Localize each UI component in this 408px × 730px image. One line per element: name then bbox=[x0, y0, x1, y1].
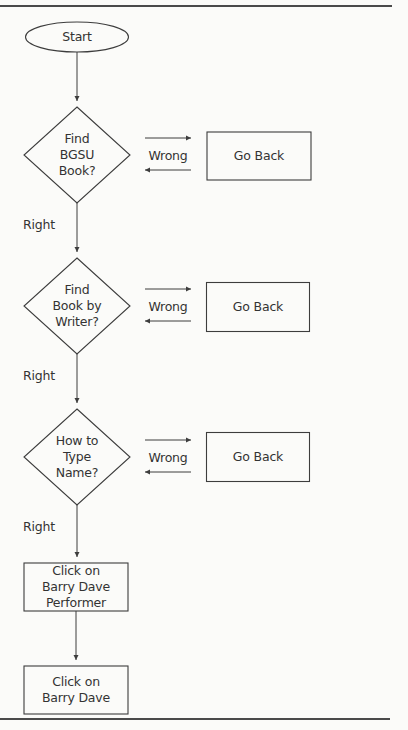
flowchart-diagram: WrongRightWrongRightWrongRight StartFind… bbox=[0, 0, 408, 730]
node-step5: Click onBarry Dave bbox=[24, 666, 128, 714]
node-label: Barry Dave bbox=[42, 690, 111, 705]
edge-start-to-q1 bbox=[75, 52, 80, 101]
edge-label-right: Right bbox=[23, 368, 55, 383]
node-back3: Go Back bbox=[207, 433, 310, 482]
edge-q2-to-q3: Right bbox=[23, 354, 80, 403]
arrowhead-icon bbox=[74, 655, 79, 660]
node-label: Type bbox=[62, 449, 91, 464]
node-label: Book? bbox=[59, 163, 96, 178]
edge-label-right: Right bbox=[23, 519, 55, 534]
edge-label-wrong: Wrong bbox=[148, 450, 187, 465]
node-label: Writer? bbox=[55, 314, 98, 329]
arrowhead-icon bbox=[186, 287, 191, 292]
edge-label-right: Right bbox=[23, 217, 55, 232]
node-q1: FindBGSUBook? bbox=[24, 107, 130, 203]
nodes-layer: StartFindBGSUBook?Go BackFindBook byWrit… bbox=[24, 22, 311, 714]
node-q3: How toTypeName? bbox=[24, 409, 130, 505]
node-label: Find bbox=[65, 282, 90, 297]
arrowhead-icon bbox=[145, 168, 150, 173]
edge-q1-to-back1: Wrong bbox=[145, 136, 191, 163]
arrowhead-icon bbox=[145, 319, 150, 324]
node-label: Go Back bbox=[233, 299, 284, 314]
node-label: Barry Dave bbox=[42, 579, 111, 594]
arrowhead-icon bbox=[75, 552, 80, 557]
node-label: Find bbox=[65, 131, 90, 146]
arrowhead-icon bbox=[75, 96, 80, 101]
edge-q2-to-back2: Wrong bbox=[145, 287, 191, 314]
arrowhead-icon bbox=[186, 136, 191, 141]
node-label: Performer bbox=[46, 595, 107, 610]
node-start: Start bbox=[26, 22, 129, 52]
node-label: Go Back bbox=[233, 449, 284, 464]
edges-layer: WrongRightWrongRightWrongRight bbox=[23, 52, 191, 660]
edge-step4-to-step5 bbox=[74, 611, 79, 660]
edge-label-wrong: Wrong bbox=[148, 148, 187, 163]
node-back1: Go Back bbox=[207, 132, 311, 180]
node-label: BGSU bbox=[60, 147, 94, 162]
arrowhead-icon bbox=[145, 470, 150, 475]
node-back2: Go Back bbox=[207, 283, 310, 332]
node-label: How to bbox=[56, 433, 99, 448]
arrowhead-icon bbox=[186, 438, 191, 443]
edge-back1-to-q1 bbox=[145, 168, 191, 173]
node-q2: FindBook byWriter? bbox=[24, 258, 130, 354]
node-label: Name? bbox=[56, 465, 99, 480]
arrowhead-icon bbox=[75, 247, 80, 252]
node-label: Click on bbox=[52, 674, 100, 689]
edge-q1-to-q2: Right bbox=[23, 203, 80, 252]
node-label: Click on bbox=[52, 563, 100, 578]
node-label: Start bbox=[62, 29, 92, 44]
arrowhead-icon bbox=[75, 398, 80, 403]
edge-back3-to-q3 bbox=[145, 470, 191, 475]
node-label: Go Back bbox=[234, 148, 285, 163]
edge-label-wrong: Wrong bbox=[148, 299, 187, 314]
edge-q3-to-step4: Right bbox=[23, 505, 80, 557]
node-step4: Click onBarry DavePerformer bbox=[24, 563, 128, 612]
node-label: Book by bbox=[52, 298, 102, 313]
edge-back2-to-q2 bbox=[145, 319, 191, 324]
edge-q3-to-back3: Wrong bbox=[145, 438, 191, 465]
